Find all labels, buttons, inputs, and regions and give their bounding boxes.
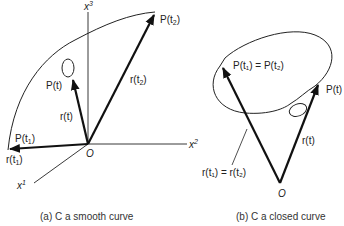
label-r-t2: r(t2): [130, 74, 147, 86]
label-P-t2: P(t2): [160, 14, 180, 26]
label-P-t: P(t): [46, 80, 62, 91]
figure-b-closed-curve: P(t₁) = P(t₂) P(t) r(t) r(t₁) = r(t₂) O …: [202, 32, 342, 222]
leader-line: [232, 129, 247, 165]
x2-axis-label: x2: [188, 138, 198, 150]
label-r-t-b: r(t): [302, 135, 315, 146]
diagram-canvas: x3 x2 x1 O P(t2) r(t2) P(t) r(t) P(t1) r…: [0, 0, 344, 226]
figure-a-smooth-curve: x3 x2 x1 O P(t2) r(t2) P(t) r(t) P(t1) r…: [6, 0, 198, 222]
label-P-t1-eq-P-t2: P(t₁) = P(t₂): [233, 60, 284, 71]
closed-curve-c: [213, 32, 332, 114]
origin-label-a: O: [86, 148, 94, 159]
label-r-t1: r(t1): [6, 154, 23, 166]
label-P-t1: P(t1): [15, 133, 35, 145]
label-r-t: r(t): [60, 111, 73, 122]
label-r-t1-eq-r-t2: r(t₁) = r(t₂): [202, 167, 246, 178]
x3-axis-label: x3: [83, 0, 93, 12]
vector-r-t1-eq-r-t2: [223, 68, 280, 183]
caption-a: (a) C a smooth curve: [40, 211, 134, 222]
curve-loop: [62, 59, 74, 77]
caption-b: (b) C a closed curve: [236, 211, 326, 222]
x1-axis: [34, 144, 88, 183]
vector-r-t: [73, 80, 88, 144]
vector-r-t-b: [280, 85, 318, 183]
x1-axis-label: x1: [16, 179, 26, 191]
label-P-t-b: P(t): [326, 84, 342, 95]
vector-r-t1: [10, 144, 88, 149]
origin-label-b: O: [278, 188, 286, 199]
